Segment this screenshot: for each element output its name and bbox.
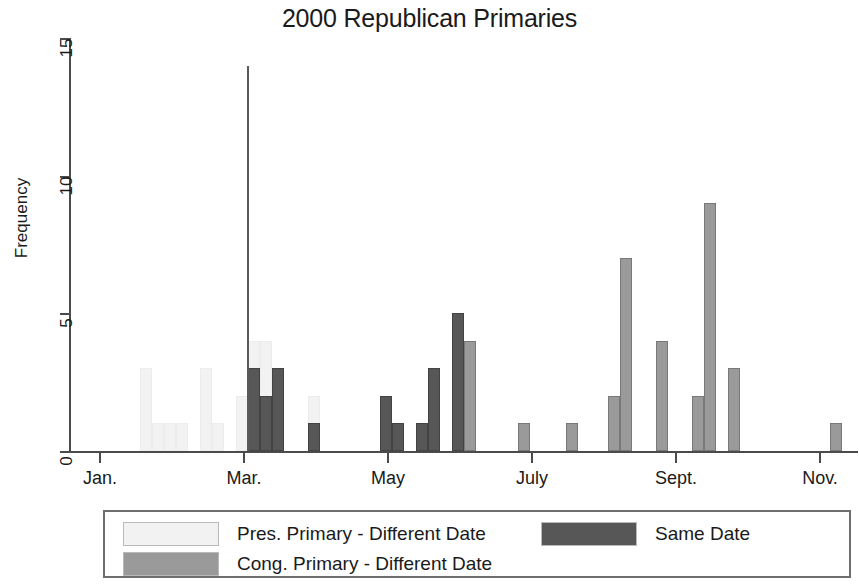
bar-cong_diff (566, 423, 578, 451)
bar-cong_diff (608, 396, 620, 451)
bar-pres_diff (152, 423, 164, 451)
legend-swatch (123, 522, 219, 546)
bar-same_date (392, 423, 404, 451)
legend: Pres. Primary - Different DateSame DateC… (103, 510, 851, 578)
legend-label: Pres. Primary - Different Date (237, 523, 486, 545)
bar-same_date (452, 313, 464, 451)
y-tick-label: 10 (57, 176, 77, 196)
x-tick-label: Sept. (655, 468, 697, 489)
x-tick-label: Nov. (802, 468, 838, 489)
x-tick-mark (819, 453, 821, 463)
bar-same_date (260, 396, 272, 451)
bar-pres_diff (200, 368, 212, 451)
x-tick-label: Jan. (83, 468, 117, 489)
bar-same_date (308, 423, 320, 451)
bar-same_date (248, 368, 260, 451)
x-tick-label: May (371, 468, 405, 489)
legend-item[interactable]: Same Date (541, 522, 750, 546)
bar-cong_diff (704, 203, 716, 451)
legend-item[interactable]: Pres. Primary - Different Date (123, 522, 486, 546)
bar-same_date (416, 423, 428, 451)
x-tick-label: Mar. (226, 468, 261, 489)
bar-cong_diff (830, 423, 842, 451)
bar-same_date (380, 396, 392, 451)
bar-pres_diff (164, 423, 176, 451)
legend-label: Same Date (655, 523, 750, 545)
legend-swatch (123, 552, 219, 576)
bar-cong_diff (518, 423, 530, 451)
bar-pres_diff (140, 368, 152, 451)
bar-cong_diff (692, 396, 704, 451)
page-title: 2000 Republican Primaries (0, 4, 859, 33)
x-tick-mark (675, 453, 677, 463)
x-tick-mark (387, 453, 389, 463)
x-tick-mark (243, 453, 245, 463)
bar-same_date (272, 368, 284, 451)
x-tick-mark (99, 453, 101, 463)
x-tick-label: July (516, 468, 548, 489)
bar-pres_diff (212, 423, 224, 451)
y-axis-line (69, 38, 71, 453)
chart-figure: 2000 Republican Primaries Frequency 0510… (0, 0, 859, 586)
legend-swatch (541, 522, 637, 546)
bar-cong_diff (620, 258, 632, 451)
bar-pres_diff (176, 423, 188, 451)
super-tuesday-reference-line (247, 66, 249, 451)
y-tick-label: 0 (57, 451, 77, 471)
legend-label: Cong. Primary - Different Date (237, 553, 492, 575)
bar-cong_diff (464, 341, 476, 451)
x-tick-mark (531, 453, 533, 463)
x-axis-line (69, 451, 858, 453)
y-tick-label: 5 (57, 313, 77, 333)
bar-cong_diff (656, 341, 668, 451)
bar-same_date (428, 368, 440, 451)
y-axis-label: Frequency (12, 138, 32, 298)
legend-item[interactable]: Cong. Primary - Different Date (123, 552, 492, 576)
plot-area: 051015 Jan.Mar.MayJulySept.Nov. (69, 38, 858, 453)
bar-cong_diff (728, 368, 740, 451)
y-tick-label: 15 (57, 38, 77, 58)
